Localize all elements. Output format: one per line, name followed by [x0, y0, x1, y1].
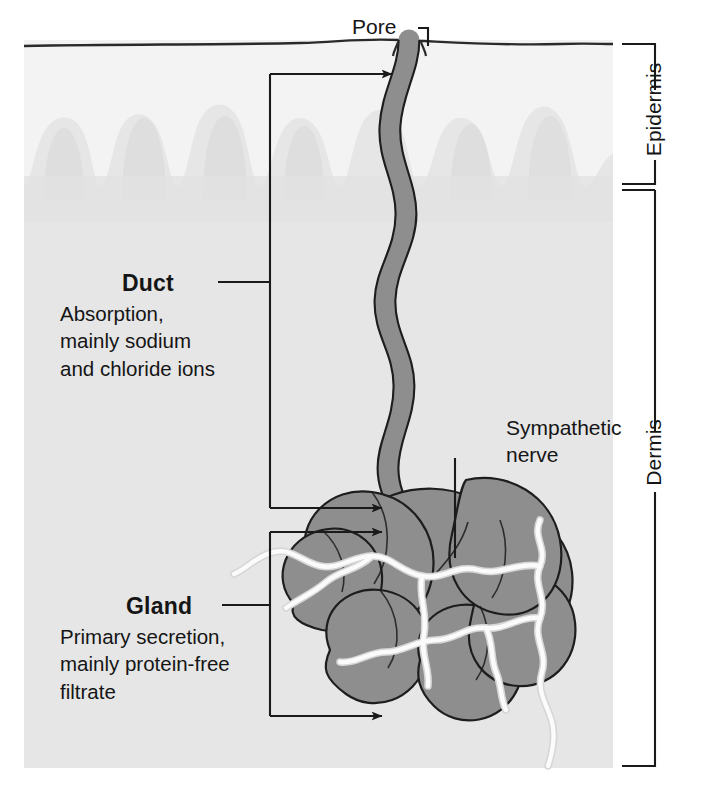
figure-canvas: Pore Duct Absorption, mainly sodium and …: [0, 0, 704, 794]
duct-description: Absorption, mainly sodium and chloride i…: [60, 300, 215, 382]
dermis-label: Dermis: [641, 372, 668, 532]
dermo-epidermal-junction: [24, 176, 613, 222]
duct-title-label: Duct: [122, 269, 174, 298]
gland-description: Primary secretion, mainly protein-free f…: [60, 623, 230, 705]
gland-title-label: Gland: [126, 592, 192, 621]
dermis-bracket-bottom: [622, 492, 655, 766]
pore-label: Pore: [352, 14, 396, 41]
sympathetic-nerve-label: Sympathetic nerve: [506, 415, 622, 469]
epidermis-label: Epidermis: [641, 29, 668, 189]
